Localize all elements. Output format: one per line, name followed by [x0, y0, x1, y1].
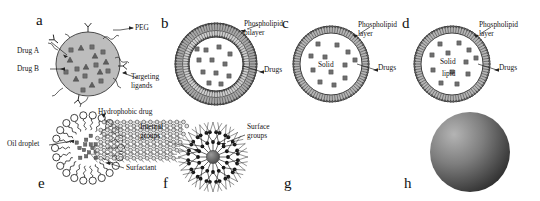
label-targeting-ligands-line2: ligands	[131, 82, 152, 90]
label-solid-lipid-line2: lipid	[442, 70, 456, 78]
panel-letter-f: f	[163, 176, 168, 191]
panel-letter-g: g	[284, 176, 292, 191]
panel-a-graphic	[48, 23, 137, 107]
panel-letter-h: h	[404, 176, 412, 191]
label-internal-groups-line2: groups	[140, 132, 160, 140]
nanocarrier-figure: a b c d e f g h PEG Drug A Drug B Target…	[0, 0, 540, 201]
label-drugs-c: Drugs	[378, 64, 396, 72]
label-drugs-b: Drugs	[264, 66, 282, 74]
panel-letter-b: b	[161, 16, 169, 31]
label-phospholipid-layer-d-line2: layer	[479, 30, 494, 38]
label-oil-droplet: Oil droplet	[7, 140, 39, 148]
panel-letter-e: e	[38, 176, 45, 191]
figure-graphics	[0, 0, 540, 201]
panel-letter-a: a	[36, 13, 43, 28]
label-peg: PEG	[135, 24, 149, 32]
label-drugs-d: Drugs	[499, 64, 517, 72]
label-phospholipid-bilayer-line2: bilayer	[244, 29, 265, 37]
label-surfactant: Surfactant	[126, 164, 156, 172]
panel-f-graphic	[167, 122, 248, 192]
panel-h-graphic	[430, 112, 510, 192]
label-drug-a: Drug A	[17, 47, 39, 55]
label-solid-core-c: Solid	[318, 61, 334, 69]
panel-letter-d: d	[402, 16, 410, 31]
label-phospholipid-layer-c-line2: layer	[358, 30, 373, 38]
label-solid-lipid-line1: Solid	[440, 58, 456, 66]
label-drug-b: Drug B	[17, 65, 39, 73]
label-surface-groups-line2: groups	[247, 132, 267, 140]
label-hydrophobic-drug: Hydrophobic drug	[98, 108, 152, 116]
